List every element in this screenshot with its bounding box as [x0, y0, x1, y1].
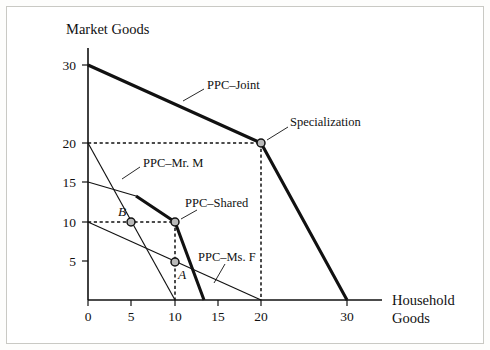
- x-axis-title-line1: Household: [392, 292, 456, 308]
- figure-container: 30 20 15 10 5 0 5 10 15 20 30 Market Goo…: [0, 0, 490, 350]
- leader-ppc-ms-f: [214, 264, 225, 283]
- x-tick-label-0: 0: [85, 309, 92, 324]
- leader-ppc-joint: [183, 89, 204, 101]
- y-tick-label-5: 5: [69, 254, 76, 269]
- label-specialization: Specialization: [290, 115, 362, 129]
- x-tick-label-5: 5: [128, 309, 135, 324]
- curve-ppc-shared-thin-segment: [88, 182, 136, 196]
- label-point-a: A: [177, 267, 187, 282]
- marker-point-b[interactable]: [127, 218, 135, 226]
- leader-ppc-mr-m: [122, 167, 140, 179]
- leader-specialization: [267, 127, 288, 140]
- y-tick-label-30: 30: [63, 58, 77, 73]
- y-tick-label-15: 15: [63, 175, 77, 190]
- curve-ppc-joint: [88, 65, 347, 300]
- marker-specialization[interactable]: [257, 139, 265, 147]
- x-tick-label-30: 30: [340, 309, 354, 324]
- label-ppc-joint: PPC–Joint: [207, 78, 260, 92]
- y-tick-label-10: 10: [63, 215, 77, 230]
- x-tick-label-20: 20: [254, 309, 268, 324]
- y-axis-title: Market Goods: [66, 21, 150, 37]
- label-point-b: B: [118, 204, 126, 219]
- ppc-chart: 30 20 15 10 5 0 5 10 15 20 30 Market Goo…: [0, 0, 490, 350]
- label-ppc-ms-f: PPC–Ms. F: [198, 250, 256, 264]
- leader-ppc-shared: [181, 210, 197, 219]
- x-axis-title-line2: Goods: [392, 310, 430, 326]
- label-ppc-mr-m: PPC–Mr. M: [143, 156, 203, 170]
- marker-shared[interactable]: [171, 218, 179, 226]
- marker-point-a[interactable]: [171, 258, 179, 266]
- x-tick-label-15: 15: [211, 309, 225, 324]
- y-tick-label-20: 20: [63, 136, 77, 151]
- label-ppc-shared: PPC–Shared: [185, 196, 249, 210]
- x-tick-label-10: 10: [168, 309, 182, 324]
